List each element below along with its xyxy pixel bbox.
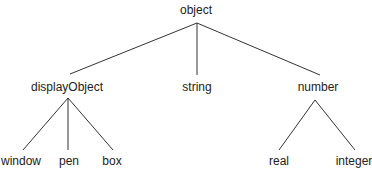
node-integer: integer bbox=[336, 154, 372, 168]
node-number: number bbox=[298, 80, 339, 94]
edge-object-displayObject bbox=[70, 23, 197, 74]
edge-number-integer bbox=[315, 100, 355, 150]
node-string: string bbox=[182, 80, 211, 94]
edge-displayObject-box bbox=[68, 98, 113, 150]
node-real: real bbox=[269, 154, 289, 168]
node-displayObject: displayObject bbox=[31, 80, 103, 94]
node-object: object bbox=[180, 3, 212, 17]
edge-number-real bbox=[279, 100, 315, 150]
node-box: box bbox=[102, 154, 121, 168]
node-pen: pen bbox=[59, 154, 79, 168]
edge-object-number bbox=[197, 23, 320, 75]
node-window: window bbox=[1, 154, 41, 168]
edge-displayObject-window bbox=[23, 98, 68, 150]
